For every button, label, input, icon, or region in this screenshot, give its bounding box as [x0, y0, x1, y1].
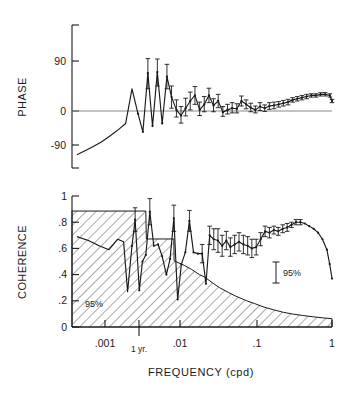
coherence-ytick-06: .6 [58, 242, 67, 254]
xtick-1: 1 [329, 337, 335, 349]
figure-container: 90 0 -90 PHASE 1 .8 .6 .4 .2 0 COHERENCE… [0, 0, 361, 393]
coherence-ytick-02: .2 [58, 294, 67, 306]
significance-label-right: 95% [283, 268, 301, 278]
xtick-001: .001 [95, 337, 116, 349]
phase-ytick-90: 90 [54, 55, 66, 67]
phase-ytick-0: 0 [60, 105, 66, 117]
xtick-01: .01 [173, 337, 188, 349]
coherence-ytick-08: .8 [58, 216, 67, 228]
coherence-ytick-1: 1 [61, 190, 67, 202]
xtick-point1: .1 [253, 337, 262, 349]
coherence-ytick-04: .4 [58, 268, 67, 280]
spectrum-figure: 90 0 -90 PHASE 1 .8 .6 .4 .2 0 COHERENCE… [0, 0, 361, 393]
phase-axis-label: PHASE [16, 77, 28, 116]
phase-ytick-neg90: -90 [51, 139, 66, 151]
xtick-1yr: 1 yr. [131, 344, 147, 354]
x-axis-label: FREQUENCY (cpd) [148, 366, 254, 378]
coherence-ytick-0: 0 [61, 321, 67, 333]
significance-label-left: 95% [85, 299, 103, 309]
coherence-axis-label: COHERENCE [16, 225, 28, 299]
